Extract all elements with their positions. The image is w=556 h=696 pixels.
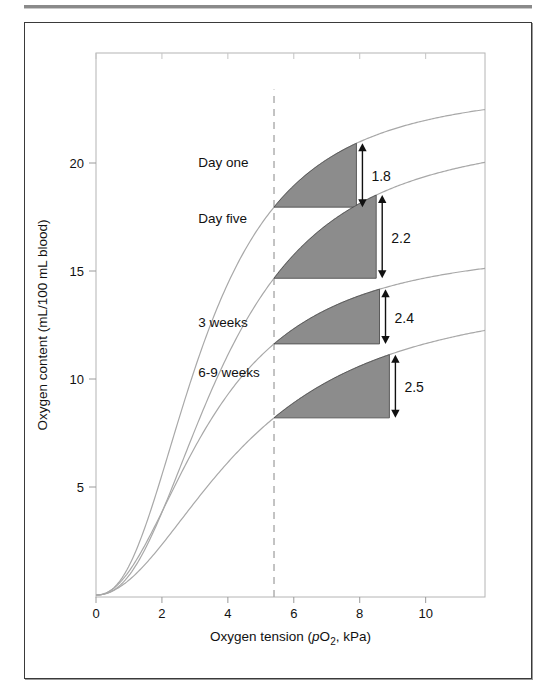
x-tick-label-8: 8 [356, 606, 363, 621]
delivery-arrow-head-up-2 [381, 289, 389, 297]
delivery-value-label-0: 1.8 [371, 168, 391, 184]
y-axis-label: Oxygen content (mL/100 mL blood) [35, 219, 50, 430]
curve-label-6-9-weeks: 6-9 weeks [198, 365, 260, 380]
delivery-arrow-head-up-0 [358, 143, 366, 151]
x-tick-label-4: 4 [224, 606, 231, 621]
shaded-band-6-9-weeks [274, 355, 389, 418]
shaded-band-3-weeks [274, 289, 379, 344]
y-tick-label-10: 10 [70, 372, 84, 387]
delivery-value-label-3: 2.5 [404, 379, 424, 395]
delivery-arrow-head-up-1 [378, 195, 386, 203]
delivery-arrow-head-down-1 [378, 270, 386, 278]
chart-plot-area: 02468105101520Oxygen content (mL/100 mL … [0, 0, 556, 696]
delivery-value-label-2: 2.4 [395, 310, 415, 326]
x-tick-label-2: 2 [158, 606, 165, 621]
curve-label-3-weeks: 3 weeks [198, 315, 248, 330]
plot-frame [96, 53, 485, 597]
x-axis-label: Oxygen tension (pO2, kPa) [210, 629, 371, 647]
curve-day-one [96, 110, 485, 595]
x-tick-label-10: 10 [418, 606, 432, 621]
y-tick-label-15: 15 [70, 264, 84, 279]
x-tick-label-0: 0 [92, 606, 99, 621]
delivery-arrow-head-down-2 [381, 336, 389, 344]
oxygen-dissociation-chart: 02468105101520Oxygen content (mL/100 mL … [0, 0, 556, 696]
curve-6-9-weeks [96, 330, 485, 595]
y-tick-label-20: 20 [70, 156, 84, 171]
x-tick-label-6: 6 [290, 606, 297, 621]
curve-label-day-five: Day five [198, 211, 247, 226]
delivery-arrow-head-up-3 [391, 355, 399, 363]
curve-3-weeks [96, 268, 485, 595]
delivery-value-label-1: 2.2 [391, 230, 411, 246]
curve-day-five [96, 162, 485, 595]
figure-page: 02468105101520Oxygen content (mL/100 mL … [0, 0, 556, 696]
shaded-band-day-one [274, 143, 356, 207]
y-tick-label-5: 5 [77, 480, 84, 495]
delivery-arrow-head-down-3 [391, 410, 399, 418]
curve-label-day-one: Day one [198, 155, 248, 170]
